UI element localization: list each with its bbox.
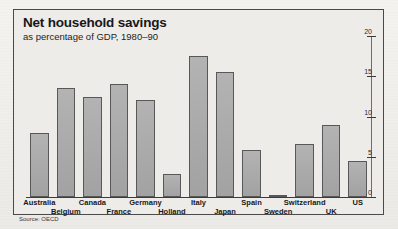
bar <box>242 150 261 197</box>
bar <box>269 195 288 197</box>
category-label: UK <box>326 207 337 216</box>
y-tick-mark <box>367 36 376 37</box>
y-tick-label: 15 <box>358 68 372 75</box>
category-label: Australia <box>23 198 55 207</box>
category-label: Switzerland <box>284 198 326 207</box>
bar <box>189 56 208 197</box>
y-tick-mark <box>367 197 376 198</box>
category-label: Germany <box>129 198 162 207</box>
figure-container: Net household savings as percentage of G… <box>0 0 398 229</box>
y-tick-label: 20 <box>358 28 372 35</box>
bar <box>163 174 182 197</box>
bar <box>216 72 235 197</box>
bar <box>57 88 76 197</box>
source-note: Source: OECD <box>19 216 59 222</box>
y-tick-label: 5 <box>358 149 372 156</box>
category-label: Canada <box>79 198 106 207</box>
bar <box>30 133 49 197</box>
category-label: Japan <box>214 207 236 216</box>
y-tick-mark <box>367 76 376 77</box>
chart-title: Net household savings <box>23 15 167 30</box>
category-label: Spain <box>241 198 261 207</box>
bar <box>136 100 155 197</box>
category-label: Belgium <box>51 207 81 216</box>
category-label: Holland <box>158 207 186 216</box>
y-tick-mark <box>367 157 376 158</box>
bar <box>110 84 129 197</box>
category-label: US <box>353 198 363 207</box>
y-tick-mark <box>367 117 376 118</box>
y-tick-label: 10 <box>358 109 372 116</box>
chart-panel: Net household savings as percentage of G… <box>13 9 384 215</box>
bar <box>322 125 341 197</box>
bar <box>83 97 102 197</box>
bar <box>295 144 314 197</box>
y-tick-label: 0 <box>358 189 372 196</box>
category-label: France <box>107 207 132 216</box>
category-label: Sweden <box>264 207 292 216</box>
category-label: Italy <box>191 198 206 207</box>
bar-series <box>26 36 371 197</box>
